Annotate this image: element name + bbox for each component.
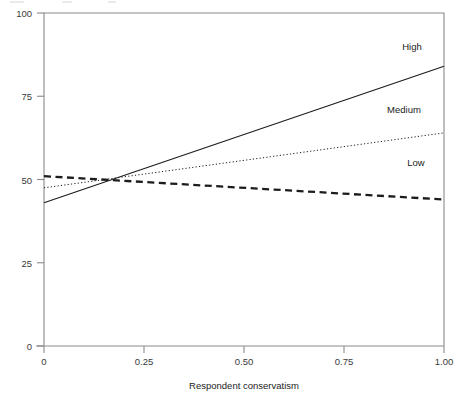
series-label-high: High	[402, 41, 422, 52]
series-label-medium: Medium	[387, 104, 421, 115]
y-tick-label-25: 25	[21, 258, 32, 269]
y-tick-label-100: 100	[16, 8, 32, 19]
x-axis-title: Respondent conservatism	[189, 380, 299, 391]
line-chart-plot: 100 75 50 25 0 0 0.25 0.50 0.75 1.00 Res…	[0, 0, 468, 398]
x-tick-label-050: 0.50	[235, 356, 254, 367]
x-tick-label-100: 1.00	[435, 356, 454, 367]
y-tick-label-75: 75	[21, 91, 32, 102]
series-line-high	[44, 66, 444, 203]
y-tick-label-50: 50	[21, 175, 32, 186]
x-tick-label-025: 0.25	[135, 356, 154, 367]
x-tick-label-075: 0.75	[335, 356, 354, 367]
series-label-low: Low	[407, 157, 425, 168]
y-tick-label-0: 0	[27, 341, 32, 352]
chart-figure: 100 75 50 25 0 0 0.25 0.50 0.75 1.00 Res…	[0, 0, 468, 398]
series-line-low	[44, 176, 444, 199]
x-tick-label-0: 0	[41, 356, 46, 367]
